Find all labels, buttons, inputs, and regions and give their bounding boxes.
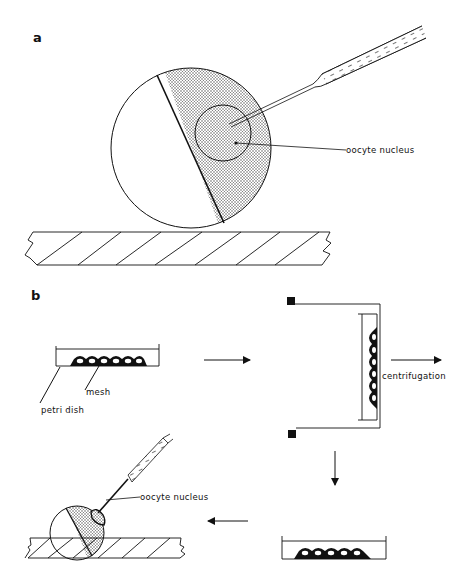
petri-dish-end <box>282 536 386 559</box>
panel-b-label: b <box>31 288 40 303</box>
centrifuge-bucket <box>287 297 380 438</box>
oocyte-nucleus-label-b: oocyte nucleus <box>140 492 209 502</box>
centrifugation-label: centrifugation <box>382 371 446 381</box>
rotor-pivot-bottom <box>288 430 296 438</box>
panel-a: a oocyte nucleus <box>25 26 426 265</box>
petri-dish-pointer <box>40 367 60 403</box>
petri-dish-start: mesh petri dish <box>40 344 159 415</box>
oocytes-pelleted <box>369 327 377 409</box>
mesh-label: mesh <box>86 387 111 397</box>
support-slab-b <box>25 538 185 558</box>
panel-b: b mesh petri dish <box>25 288 446 570</box>
rotor-pivot-top <box>287 297 295 305</box>
figure-canvas: a oocyte nucleus <box>0 0 464 585</box>
oocyte-nucleus-label-a: oocyte nucleus <box>346 145 415 155</box>
oocytes-on-mesh <box>70 356 147 366</box>
support-slab-a <box>25 232 331 265</box>
oocyte-small <box>50 500 120 570</box>
panel-a-label: a <box>33 30 42 45</box>
petri-dish-label: petri dish <box>41 405 84 415</box>
